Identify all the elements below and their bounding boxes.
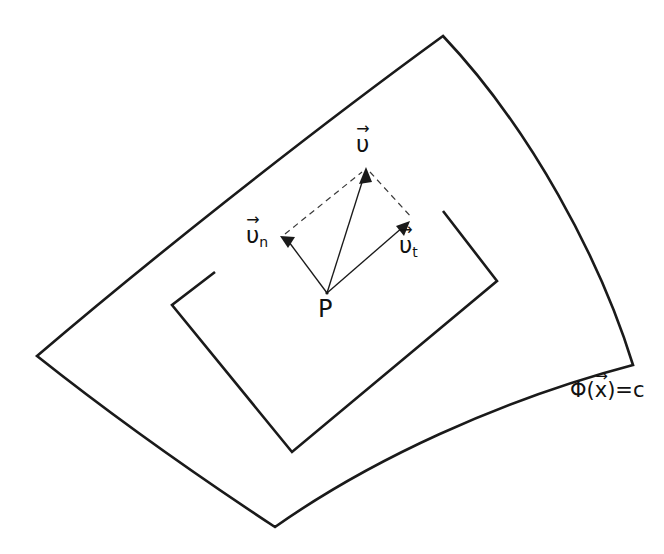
diagram-svg <box>0 0 664 554</box>
velocity-vector-label: → υ <box>356 133 369 156</box>
normal-vector-label: → υ n <box>246 224 268 249</box>
normal-arrow-accent: → <box>246 212 258 228</box>
constraint-prefix: Φ( <box>570 378 595 402</box>
normal-subscript: n <box>259 234 268 250</box>
tangential-arrow-accent: → <box>399 222 411 238</box>
tangential-subscript: t <box>412 244 418 260</box>
tangential-vector-label: → υ t <box>399 234 418 259</box>
constraint-suffix: )=c <box>607 378 644 402</box>
constraint-arrow-accent: → <box>595 369 607 384</box>
figure-canvas: → υ → υ n → υ t P Φ(→x)=c <box>0 0 664 554</box>
level-surface-equation-label: Φ(→x)=c <box>570 380 645 401</box>
point-p-label: P <box>318 297 332 321</box>
velocity-arrow-accent: → <box>356 121 368 137</box>
